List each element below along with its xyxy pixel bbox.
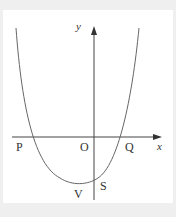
y-axis-arrow-icon	[91, 26, 97, 35]
point-label-q: Q	[125, 141, 134, 153]
x-axis-label: x	[157, 141, 162, 152]
y-axis-label: y	[76, 21, 81, 32]
point-label-v: V	[74, 188, 83, 200]
parabola-curve	[16, 28, 139, 184]
point-label-o: O	[80, 141, 89, 153]
point-label-p: P	[16, 141, 23, 153]
point-label-s: S	[100, 180, 107, 192]
parabola-graph	[0, 0, 176, 217]
